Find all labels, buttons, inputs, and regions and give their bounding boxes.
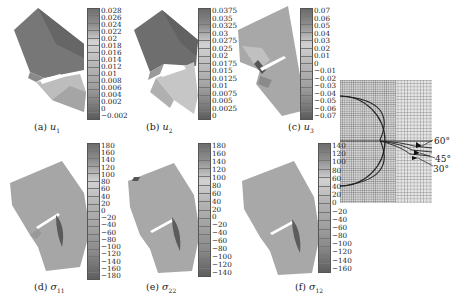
panel-caption: (b) u2	[146, 121, 172, 134]
tick-label: −140	[332, 257, 352, 264]
caption-label: (a)	[34, 121, 47, 132]
tick-label: −0.03	[314, 82, 336, 89]
tick-label: 0.01	[314, 52, 336, 59]
colorbar	[318, 143, 331, 273]
panel-caption: (a) u1	[34, 121, 60, 134]
caption-label: (b)	[146, 121, 160, 132]
tick-label: 20	[332, 191, 352, 198]
tick-label: 140	[332, 142, 352, 149]
tick-label: 100	[332, 158, 352, 165]
tick-label: −160	[332, 265, 352, 272]
plate-stress-plot	[220, 135, 320, 285]
tick-label: 0.07	[314, 7, 336, 14]
tick-label: −40	[332, 216, 352, 223]
tick-label: 0.05	[314, 22, 336, 29]
tick-label: 80	[332, 167, 352, 174]
colorbar	[198, 8, 211, 120]
plate-deformation-plot	[110, 0, 200, 118]
panel-caption: (c) u3	[288, 121, 314, 134]
caption-subscript: 1	[56, 127, 60, 134]
panel-b-u2: 0.0375 0.035 0.0325 0.03 0.0275 0.025 0.…	[110, 0, 240, 135]
caption-subscript: 3	[310, 127, 314, 134]
angle-label-45: 45°	[435, 154, 451, 164]
panel-c-u3: 0.07 0.06 0.05 0.04 0.03 0.02 0.01 0 −0.…	[232, 0, 342, 135]
caption-label: (d)	[34, 281, 48, 292]
angle-label-30: 30°	[433, 164, 449, 174]
colorbar	[87, 143, 100, 280]
tick-label: 0.03	[314, 37, 336, 44]
panel-caption: (d) σ11	[34, 281, 65, 294]
tick-label: −0.01	[314, 67, 336, 74]
panel-caption: (f) σ12	[295, 281, 323, 294]
colorbar-ticks: 140 120 100 80 60 40 20 0 −20 −40 −60 −8…	[332, 142, 352, 272]
tick-label: −60	[332, 224, 352, 231]
caption-subscript: 12	[315, 287, 323, 294]
caption-subscript: 11	[57, 287, 65, 294]
tick-label: −120	[332, 248, 352, 255]
tick-label: −80	[332, 232, 352, 239]
panel-f-sigma12: 140 120 100 80 60 40 20 0 −20 −40 −60 −8…	[220, 135, 355, 300]
panel-caption: (e) σ22	[146, 281, 176, 294]
caption-subscript: 2	[169, 127, 173, 134]
tick-label: −0.05	[314, 97, 336, 104]
tick-label: −100	[332, 240, 352, 247]
mesh-inset: 60° 45° 30°	[340, 80, 455, 205]
caption-label: (f)	[295, 281, 306, 292]
caption-label: (c)	[288, 121, 301, 132]
tick-label: −20	[332, 208, 352, 215]
tick-label: 120	[332, 150, 352, 157]
tick-label: 60	[332, 175, 352, 182]
plate-stress-plot	[0, 135, 90, 285]
colorbar	[87, 8, 100, 120]
plate-stress-plot	[110, 135, 200, 285]
tick-label: 40	[332, 183, 352, 190]
colorbar-ticks: 0.07 0.06 0.05 0.04 0.03 0.02 0.01 0 −0.…	[314, 7, 336, 119]
colorbar	[300, 8, 313, 120]
caption-subscript: 22	[169, 287, 177, 294]
angle-label-60: 60°	[434, 136, 450, 146]
tick-label: −0.07	[314, 112, 336, 119]
caption-label: (e)	[146, 281, 159, 292]
tick-label: 0	[332, 199, 352, 206]
plate-deformation-plot	[0, 0, 90, 118]
colorbar	[198, 143, 211, 277]
